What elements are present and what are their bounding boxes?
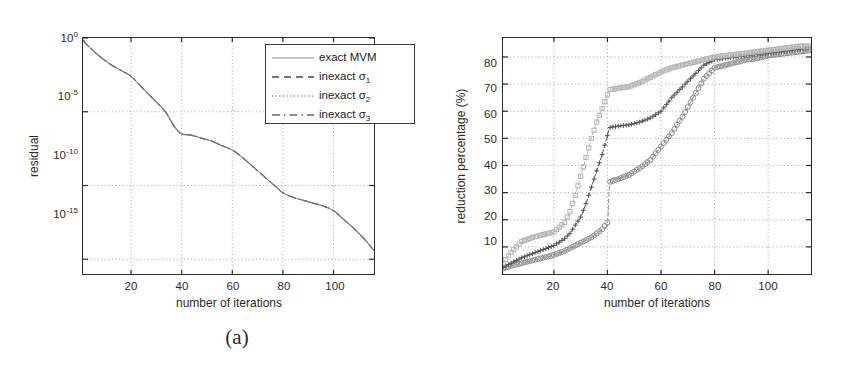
legend-a-sigma-1: σ <box>359 70 366 82</box>
legend-a-label-3-text: inexact <box>319 108 355 120</box>
panel-b-ytick-40: 40 <box>465 160 497 172</box>
legend-a-sub-2: 2 <box>366 96 370 105</box>
panel-b-xaxis-title: number of iterations <box>604 297 710 309</box>
legend-a-entry-sigma2[interactable]: inexact σ2 <box>266 86 414 106</box>
legend-a-entry-sigma1[interactable]: inexact σ1 <box>266 67 414 87</box>
line-sample-dashed-icon <box>271 70 315 84</box>
panel-b-ytick-20: 20 <box>465 211 497 223</box>
panel-a-legend: exact MVM inexact σ1 inexact σ2 inexact … <box>265 44 415 124</box>
panel-a-xtick-80: 80 <box>278 281 291 293</box>
panel-b-ytick-10: 10 <box>465 236 497 248</box>
panel-b-plot-area <box>502 37 812 275</box>
panel-b-canvas <box>503 38 811 274</box>
legend-a-entry-sigma3[interactable]: inexact σ3 <box>266 105 414 125</box>
panel-a-ytick-0: 100 <box>44 33 78 45</box>
legend-a-sigma-3: σ <box>359 108 366 120</box>
panel-b-xtick-20: 20 <box>547 281 560 293</box>
panel-b-ytick-50: 50 <box>465 134 497 146</box>
figure-container: 100 10-5 10-10 10-15 20 40 60 80 100 num… <box>0 0 861 371</box>
line-sample-dotted-icon <box>271 89 315 103</box>
panel-a-xaxis-title: number of iterations <box>176 297 282 309</box>
panel-a-ytick-1: 10-5 <box>38 91 78 103</box>
panel-b-xtick-40: 40 <box>601 281 614 293</box>
panel-a-xtick-60: 60 <box>227 281 240 293</box>
legend-a-sub-1: 1 <box>366 77 370 86</box>
panel-b: 80 70 60 50 40 30 20 10 20 40 60 80 100 … <box>431 0 861 371</box>
panel-b-yaxis-title: reduction percentage (%) <box>455 89 467 224</box>
panel-a-caption: (a) <box>225 325 248 350</box>
panel-b-ytick-60: 60 <box>465 109 497 121</box>
legend-a-label-0: exact MVM <box>315 52 377 64</box>
line-sample-solid-icon <box>271 51 315 65</box>
panel-a: 100 10-5 10-10 10-15 20 40 60 80 100 num… <box>0 0 430 371</box>
legend-a-label-2: inexact σ2 <box>315 90 370 102</box>
legend-a-sub-3: 3 <box>366 115 370 124</box>
panel-a-xtick-20: 20 <box>125 281 138 293</box>
legend-a-label-2-text: inexact <box>319 89 355 101</box>
panel-b-xtick-60: 60 <box>655 281 668 293</box>
panel-b-xtick-100: 100 <box>758 281 778 293</box>
line-sample-dashdot-icon <box>271 108 315 122</box>
legend-a-label-3: inexact σ3 <box>315 109 370 121</box>
panel-a-xtick-100: 100 <box>325 281 345 293</box>
legend-a-label-1-text: inexact <box>319 70 355 82</box>
panel-a-yaxis-title: residual <box>28 135 40 177</box>
panel-b-xtick-80: 80 <box>709 281 722 293</box>
panel-a-ytick-3: 10-15 <box>34 209 78 221</box>
panel-a-xtick-40: 40 <box>176 281 189 293</box>
panel-b-ytick-80: 80 <box>465 58 497 70</box>
panel-b-ytick-70: 70 <box>465 83 497 95</box>
legend-a-sigma-2: σ <box>359 89 366 101</box>
legend-a-entry-exact-mvm[interactable]: exact MVM <box>266 48 414 68</box>
panel-b-ytick-30: 30 <box>465 185 497 197</box>
legend-a-label-1: inexact σ1 <box>315 71 370 83</box>
